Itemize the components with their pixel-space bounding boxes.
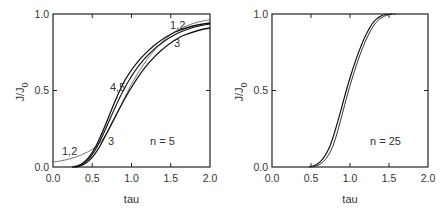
x-tick: 1.0 xyxy=(124,172,139,184)
x-tick: 1.0 xyxy=(343,172,358,184)
right-plot-frame xyxy=(272,14,428,167)
x-axis-label: tau xyxy=(342,193,357,205)
curve-label-3: 3 xyxy=(174,37,180,49)
y-tick: 0.5 xyxy=(34,84,49,96)
x-tick: 0.0 xyxy=(46,172,61,184)
x-tick: 0.5 xyxy=(304,172,319,184)
x-tick: 2.0 xyxy=(203,172,218,184)
annotation-n: n = 25 xyxy=(370,135,401,147)
curve-label-1-2: 1,2 xyxy=(170,19,185,31)
curve-4-5 xyxy=(72,23,210,167)
x-tick: 1.5 xyxy=(163,172,178,184)
y-tick: 0.5 xyxy=(253,84,268,96)
y-tick: 0.0 xyxy=(34,161,49,173)
y-tick: 1.0 xyxy=(253,8,268,20)
annotation-n: n = 5 xyxy=(150,135,175,147)
x-tick: 2.0 xyxy=(421,172,436,184)
x-axis-label: tau xyxy=(124,193,139,205)
curve-label-1-2: 1,2 xyxy=(62,145,77,157)
curve-label-4-5: 4,5 xyxy=(110,81,125,93)
y-axis-label: J/J0 xyxy=(233,82,249,101)
x-tick: 0.5 xyxy=(85,172,100,184)
y-axis-label: J/J0 xyxy=(14,82,30,101)
left-panel: 0.0 0.5 1.0 1.5 2.0 0.0 0.5 1.0 tau J/J0… xyxy=(14,8,217,205)
x-tick: 1.5 xyxy=(382,172,397,184)
curve-4-5b xyxy=(74,24,210,167)
y-tick: 0.0 xyxy=(253,161,268,173)
curve-1-2 xyxy=(53,20,210,162)
x-tick: 0.0 xyxy=(265,172,280,184)
curve-label-3: 3 xyxy=(108,135,114,147)
y-tick: 1.0 xyxy=(34,8,49,20)
right-panel: 0.0 0.5 1.0 1.5 2.0 0.0 0.5 1.0 tau J/J0… xyxy=(233,8,435,205)
chart-figure: 0.0 0.5 1.0 1.5 2.0 0.0 0.5 1.0 tau J/J0… xyxy=(0,0,448,214)
